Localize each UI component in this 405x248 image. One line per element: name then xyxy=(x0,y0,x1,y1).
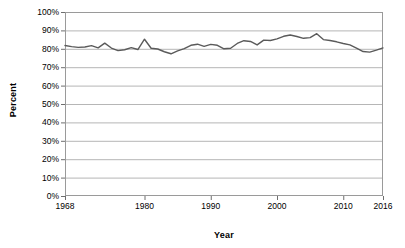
y-axis-tick-label: 40% xyxy=(42,118,59,127)
y-axis-title-text: Percent xyxy=(8,83,18,117)
x-axis-tick-label: 1990 xyxy=(201,201,220,211)
y-axis-tick-label: 10% xyxy=(42,173,59,182)
y-axis-tick-labels: 100%90%80%70%60%50%40%30%20%10%0% xyxy=(24,0,62,205)
y-axis-tick-label: 20% xyxy=(42,155,59,164)
plot-area xyxy=(65,12,383,196)
y-axis-tick-label: 100% xyxy=(37,8,59,17)
y-axis-tick-label: 80% xyxy=(42,44,59,53)
y-axis-tick-label: 90% xyxy=(42,26,59,35)
x-axis-tick-label: 2010 xyxy=(334,201,353,211)
y-axis-tick-label: 70% xyxy=(42,63,59,72)
gridlines xyxy=(65,31,383,178)
x-axis-tick-labels: 196819801990200020102016 xyxy=(0,198,405,216)
data-series-line xyxy=(65,34,383,54)
y-axis-tick-label: 60% xyxy=(42,81,59,90)
y-axis-title: Percent xyxy=(0,0,26,200)
y-axis-tick-label: 50% xyxy=(42,100,59,109)
x-axis-title: Year xyxy=(65,224,383,242)
x-axis-tick-label: 1980 xyxy=(135,201,154,211)
y-axis-tick-label: 30% xyxy=(42,136,59,145)
x-axis-tick-label: 2000 xyxy=(268,201,287,211)
plot-svg xyxy=(65,12,383,196)
x-axis-title-text: Year xyxy=(214,230,234,240)
line-chart: Percent 100%90%80%70%60%50%40%30%20%10%0… xyxy=(0,0,405,248)
x-axis-tick-label: 1968 xyxy=(56,201,75,211)
x-axis-tick-label: 2016 xyxy=(374,201,393,211)
